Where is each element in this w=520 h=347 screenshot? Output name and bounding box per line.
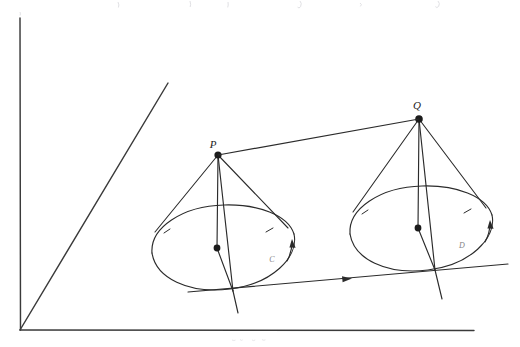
top-text-bleed <box>20 1 439 15</box>
ellipse-left-tick-marks <box>164 228 273 233</box>
apex-p-label: P <box>209 138 217 150</box>
cone-edge-right <box>218 155 288 228</box>
cone-left-generator-extension <box>233 291 238 313</box>
tick-mark-right <box>266 228 273 232</box>
vertical-axis <box>20 18 21 330</box>
center-right-ellipse-dot <box>415 225 422 232</box>
pq-segment <box>218 119 419 155</box>
bottom-text-bleed <box>232 340 265 341</box>
cone-edge-left <box>155 155 218 232</box>
cone-right-axis <box>418 119 419 228</box>
cone-edge-left <box>353 119 419 212</box>
cone-left-axis <box>217 155 218 248</box>
cone-right-edges <box>353 119 486 212</box>
geometry-figure: P Q C D <box>0 0 520 347</box>
transversal-arrow-head <box>342 276 352 282</box>
tick-mark-left <box>164 229 170 233</box>
cone-right-generator-extension <box>435 270 442 299</box>
ellipse-right-tick-marks <box>362 209 471 214</box>
apex-q-label: Q <box>413 99 421 111</box>
cone-left-edges <box>155 155 288 232</box>
cone-edge-right <box>419 119 486 208</box>
center-left-ellipse-dot <box>214 245 221 252</box>
base-ellipse-right-front-arc <box>350 215 493 271</box>
tick-mark-right <box>464 209 471 213</box>
tick-mark-left <box>362 210 368 214</box>
left-ellipse-label: C <box>269 255 275 264</box>
cone-right-generator <box>419 119 435 270</box>
transversal-line <box>188 264 508 292</box>
horizontal-axis <box>20 330 474 331</box>
diagonal-axis <box>20 83 168 330</box>
base-ellipse-left <box>152 205 295 290</box>
axis-group <box>20 18 474 331</box>
right-ellipse-label: D <box>458 241 465 250</box>
figure-canvas: P Q C D <box>0 0 520 347</box>
